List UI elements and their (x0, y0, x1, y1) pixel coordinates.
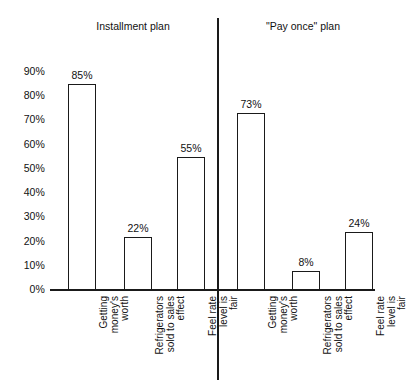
bar-1 (124, 237, 152, 290)
bar-value-label-4: 8% (281, 257, 331, 268)
y-axis-tick-0pct: 0% (0, 284, 45, 295)
x-axis-label-feel-rate-level-is-fair-installment: Feel rate level is fair (208, 296, 240, 388)
x-axis-label-feel-rate-level-is-fair-pay-once: Feel rate level is fair (376, 296, 408, 388)
bar-0 (68, 84, 96, 290)
bar-3 (237, 113, 265, 290)
bar-2 (177, 157, 205, 290)
x-axis-baseline (50, 289, 375, 291)
group-header-installment-plan: Installment plan (68, 20, 198, 32)
bar-value-label-2: 55% (166, 143, 216, 154)
y-axis-tick-80pct: 80% (0, 90, 45, 101)
x-axis-label-getting-moneys-worth-pay-once: Getting money's worth (268, 296, 300, 388)
x-axis-label-refrigerators-sold-to-sales-effect-installment: Refrigerators sold to sales effect (155, 296, 187, 388)
y-axis-tick-30pct: 30% (0, 211, 45, 222)
bar-4 (292, 271, 320, 290)
y-axis-tick-20pct: 20% (0, 236, 45, 247)
bar-5 (345, 232, 373, 290)
y-axis-tick-50pct: 50% (0, 163, 45, 174)
bar-value-label-3: 73% (226, 99, 276, 110)
group-header-pay-once-plan: "Pay once" plan (238, 20, 368, 32)
y-axis-tick-60pct: 60% (0, 139, 45, 150)
bar-value-label-0: 85% (57, 70, 107, 81)
x-axis-label-refrigerators-sold-to-sales-effect-pay-once: Refrigerators sold to sales effect (323, 296, 355, 388)
y-axis-tick-40pct: 40% (0, 187, 45, 198)
y-axis-tick-10pct: 10% (0, 260, 45, 271)
y-axis-tick-70pct: 70% (0, 114, 45, 125)
bar-value-label-5: 24% (334, 218, 384, 229)
y-axis-tick-90pct: 90% (0, 66, 45, 77)
x-axis-label-getting-moneys-worth-installment: Getting money's worth (99, 296, 131, 388)
bar-value-label-1: 22% (113, 223, 163, 234)
